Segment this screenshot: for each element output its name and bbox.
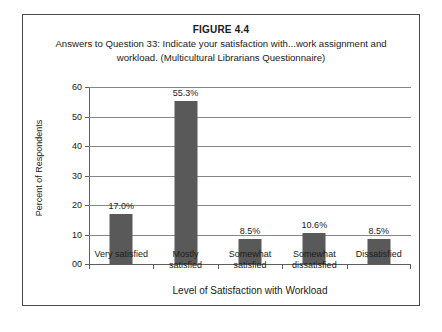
bar-value-label: 17.0% (108, 201, 134, 211)
x-tick-mark (347, 264, 348, 269)
bar (174, 101, 197, 264)
plot-area: 60504030201000 17.0%55.3%8.5%10.6%8.5% (89, 87, 411, 264)
y-tick-label: 10 (72, 231, 82, 240)
bar-value-label: 55.3% (173, 88, 199, 98)
figure-caption: Answers to Question 33: Indicate your sa… (23, 36, 419, 65)
bar-value-label: 8.5% (240, 226, 261, 236)
x-category-label: Very satisfied (89, 249, 153, 260)
x-category-label: Somewhatsatisfied (218, 249, 282, 271)
x-category-label: Somewhatdissatisfied (282, 249, 346, 271)
y-tick-label: 00 (72, 260, 82, 269)
figure-number: FIGURE 4.4 (23, 23, 419, 36)
x-category-label: Mostlysatisfied (153, 249, 217, 271)
bar-value-label: 8.5% (369, 226, 390, 236)
bar-slot: 8.5% (347, 87, 411, 264)
bar-slot: 10.6% (282, 87, 346, 264)
x-axis-title: Level of Satisfaction with Workload (89, 285, 411, 296)
y-tick-label: 60 (72, 83, 82, 92)
bar-chart: Percent of Respondents 60504030201000 17… (23, 67, 421, 307)
x-tick-mark (89, 264, 90, 269)
bar-slot: 8.5% (218, 87, 282, 264)
figure-container: FIGURE 4.4 Answers to Question 33: Indic… (22, 14, 420, 306)
bar-slot: 55.3% (153, 87, 217, 264)
y-tick-label: 30 (72, 172, 82, 181)
bar-value-label: 10.6% (302, 220, 328, 230)
y-axis-title: Percent of Respondents (34, 88, 44, 248)
y-tick-label: 20 (72, 201, 82, 210)
bar-slot: 17.0% (89, 87, 153, 264)
x-tick-mark (410, 264, 411, 269)
figure-heading: FIGURE 4.4 Answers to Question 33: Indic… (23, 23, 419, 65)
x-category-label: Dissatisfied (347, 249, 411, 260)
y-tick-label: 40 (72, 142, 82, 151)
y-tick-label: 50 (72, 113, 82, 122)
